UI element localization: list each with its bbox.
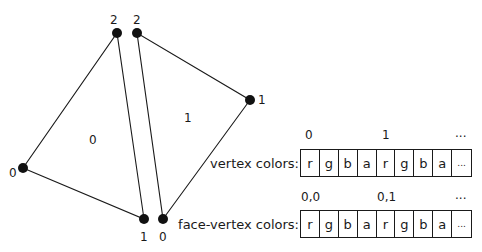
face-vertex-index-0-1: 0,1 [377,191,396,203]
triangle-1 [137,33,250,219]
vertex-label-t1-v1: 1 [258,94,266,106]
vertex-label-t0-v1: 1 [140,231,148,243]
vertex-label-t1-v0: 0 [159,231,167,243]
vertex-dot-t1-v0 [158,214,168,224]
vertex-points [18,28,255,224]
vertex-dot-t0-v1 [139,214,149,224]
vertex-index-1: 1 [382,129,390,141]
face-label-0: 0 [89,134,97,146]
array-cell: a [433,211,452,237]
array-cell: a [358,211,377,237]
array-cell: r [377,150,396,176]
array-cell: b [414,150,433,176]
array-cell: a [433,150,452,176]
face-vertex-index-0-0: 0,0 [301,191,320,203]
array-cell: g [395,211,414,237]
vertex-label-t1-v2: 2 [133,14,141,26]
vertex-label-t0-v0: 0 [9,167,17,179]
array-cell: g [395,150,414,176]
array-cell: ... [452,211,471,237]
face-vertex-colors-array: r g b a r g b a ... [300,210,472,238]
face-vertex-colors-label: face-vertex colors: [178,218,299,232]
vertex-index-ellipsis: ... [455,127,466,139]
vertex-dot-t1-v1 [245,95,255,105]
vertex-index-0: 0 [305,129,313,141]
vertex-label-t0-v2: 2 [110,14,118,26]
vertex-dot-t0-v0 [18,163,28,173]
array-cell: ... [452,150,471,176]
array-cell: r [377,211,396,237]
triangle-0 [23,33,144,219]
array-cell: a [358,150,377,176]
vertex-colors-label: vertex colors: [210,157,299,171]
vertex-dot-t1-v2 [132,28,142,38]
array-cell: b [339,211,358,237]
array-cell: b [339,150,358,176]
array-cell: g [320,150,339,176]
vertex-dot-t0-v2 [112,28,122,38]
array-cell: r [301,211,320,237]
array-cell: b [414,211,433,237]
array-cell: g [320,211,339,237]
face-vertex-index-ellipsis: ... [455,189,466,201]
face-label-1: 1 [184,112,192,124]
vertex-colors-array: r g b a r g b a ... [300,149,472,177]
array-cell: r [301,150,320,176]
